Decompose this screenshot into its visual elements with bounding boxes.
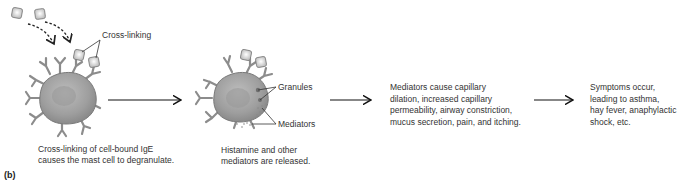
mast-cell-icon [26, 49, 100, 136]
free-antigen-icon [11, 7, 45, 19]
degranulating-mast-cell-icon [196, 49, 272, 128]
stage3-description: Mediators cause capillary dilation, incr… [390, 82, 521, 128]
mediators-label: Mediators [278, 119, 315, 129]
granules-label: Granules [278, 82, 313, 92]
crosslinking-pointer [82, 40, 100, 58]
crosslinking-label: Cross-linking [102, 30, 151, 40]
stage2-caption: Histamine and other mediators are releas… [221, 145, 310, 167]
panel-label: (b) [4, 170, 16, 180]
dashed-arrow-icon [45, 22, 70, 42]
stage4-description: Symptoms occur, leading to asthma, hay f… [590, 82, 676, 128]
dashed-arrow-icon [28, 24, 54, 44]
stage1-caption: Cross-linking of cell-bound IgE causes t… [38, 144, 174, 166]
